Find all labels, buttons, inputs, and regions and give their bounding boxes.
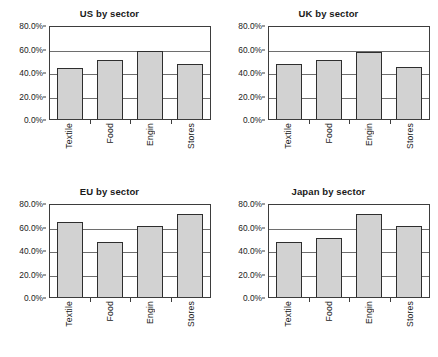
y-axis: 0.0%20.0%40.0%60.0%80.0% (219, 204, 265, 298)
x-axis-category-label: Stores (178, 301, 204, 327)
y-axis-tick-mark (262, 274, 265, 275)
x-axis-category-label: Stores (397, 123, 423, 149)
y-axis: 0.0%20.0%40.0%60.0%80.0% (0, 26, 46, 120)
x-axis-labels: TextileFoodEnginStores (49, 123, 211, 173)
x-axis-category-label: Textile (275, 301, 301, 327)
bar (276, 242, 302, 297)
y-axis-tick-label: 0.0% (24, 293, 43, 303)
chart-title: EU by sector (0, 186, 219, 197)
y-axis-tick-mark (262, 251, 265, 252)
x-axis-labels: TextileFoodEnginStores (268, 301, 430, 351)
y-axis-tick-label: 80.0% (238, 21, 262, 31)
y-axis-tick-label: 0.0% (243, 115, 262, 125)
bar (356, 214, 382, 297)
y-axis-tick-label: 40.0% (19, 246, 43, 256)
y-axis-tick-mark (43, 274, 46, 275)
bar (316, 60, 342, 119)
y-axis-tick-mark (262, 96, 265, 97)
x-axis-category-label: Food (97, 301, 123, 321)
chart-title: UK by sector (219, 8, 438, 19)
x-axis-category-label: Textile (56, 301, 82, 327)
chart-panel: UK by sector0.0%20.0%40.0%60.0%80.0%Text… (219, 0, 438, 178)
x-axis-category-label: Food (316, 301, 342, 321)
bar (97, 60, 123, 119)
x-axis-category-label: Stores (178, 123, 204, 149)
plot-area (49, 26, 211, 120)
y-axis-tick-label: 80.0% (238, 199, 262, 209)
y-axis-tick-label: 60.0% (238, 223, 262, 233)
chart-panel: EU by sector0.0%20.0%40.0%60.0%80.0%Text… (0, 178, 219, 357)
y-axis: 0.0%20.0%40.0%60.0%80.0% (0, 204, 46, 298)
y-axis-tick-label: 80.0% (19, 199, 43, 209)
y-axis-tick-label: 40.0% (238, 246, 262, 256)
bar (97, 242, 123, 297)
y-axis-tick-mark (43, 204, 46, 205)
x-axis-category-label: Engin (356, 123, 382, 146)
x-axis-category-label: Engin (356, 301, 382, 324)
bar-series (50, 27, 210, 119)
y-axis-tick-label: 0.0% (243, 293, 262, 303)
y-axis-tick-label: 80.0% (19, 21, 43, 31)
bar (396, 67, 422, 119)
chart-panel: Japan by sector0.0%20.0%40.0%60.0%80.0%T… (219, 178, 438, 357)
y-axis-tick-label: 60.0% (19, 45, 43, 55)
x-axis-category-label: Food (316, 123, 342, 143)
bar-series (269, 205, 429, 297)
bar-series (50, 205, 210, 297)
x-axis-category-label: Textile (275, 123, 301, 149)
y-axis-tick-label: 60.0% (238, 45, 262, 55)
chart-title: Japan by sector (219, 186, 438, 197)
x-axis-labels: TextileFoodEnginStores (268, 123, 430, 173)
y-axis-tick-label: 40.0% (19, 68, 43, 78)
y-axis-tick-label: 0.0% (24, 115, 43, 125)
x-axis-category-label: Engin (137, 123, 163, 146)
bar (356, 52, 382, 119)
y-axis-tick-mark (43, 26, 46, 27)
y-axis-tick-mark (43, 298, 46, 299)
x-axis-labels: TextileFoodEnginStores (49, 301, 211, 351)
y-axis-tick-label: 20.0% (19, 270, 43, 280)
y-axis-tick-label: 20.0% (19, 92, 43, 102)
bar (316, 238, 342, 297)
bar (137, 51, 163, 119)
chart-panel: US by sector0.0%20.0%40.0%60.0%80.0%Text… (0, 0, 219, 178)
x-axis-category-label: Textile (56, 123, 82, 149)
x-axis-category-label: Engin (137, 301, 163, 324)
y-axis-tick-mark (43, 120, 46, 121)
y-axis-tick-mark (43, 73, 46, 74)
x-axis-category-label: Food (97, 123, 123, 143)
chart-title: US by sector (0, 8, 219, 19)
y-axis-tick-label: 20.0% (238, 92, 262, 102)
figure-bar-chart-grid: US by sector0.0%20.0%40.0%60.0%80.0%Text… (0, 0, 438, 357)
y-axis-tick-label: 40.0% (238, 68, 262, 78)
bar (57, 222, 83, 297)
y-axis-tick-mark (262, 120, 265, 121)
bar-series (269, 27, 429, 119)
bar (177, 64, 203, 119)
y-axis-tick-mark (43, 96, 46, 97)
y-axis-tick-mark (262, 204, 265, 205)
y-axis: 0.0%20.0%40.0%60.0%80.0% (219, 26, 265, 120)
bar (177, 214, 203, 297)
bar (396, 226, 422, 297)
y-axis-tick-mark (262, 227, 265, 228)
y-axis-tick-mark (262, 73, 265, 74)
y-axis-tick-mark (43, 49, 46, 50)
x-axis-category-label: Stores (397, 301, 423, 327)
bar (57, 68, 83, 119)
y-axis-tick-mark (262, 49, 265, 50)
y-axis-tick-mark (43, 227, 46, 228)
plot-area (268, 26, 430, 120)
y-axis-tick-mark (262, 26, 265, 27)
plot-area (268, 204, 430, 298)
bar (137, 226, 163, 297)
y-axis-tick-label: 60.0% (19, 223, 43, 233)
plot-area (49, 204, 211, 298)
y-axis-tick-mark (262, 298, 265, 299)
bar (276, 64, 302, 119)
y-axis-tick-label: 20.0% (238, 270, 262, 280)
y-axis-tick-mark (43, 251, 46, 252)
